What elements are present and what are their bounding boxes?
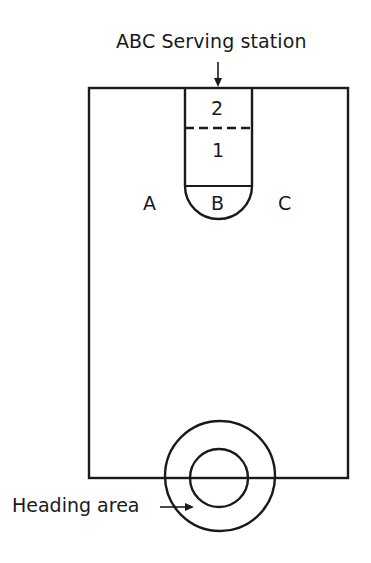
diagram-title: ABC Serving station <box>116 32 307 51</box>
zone-c-label: C <box>278 194 291 213</box>
zone-a-label: A <box>143 194 156 213</box>
zone-1-label: 1 <box>212 141 224 160</box>
court-diagram <box>0 0 371 563</box>
heading-area-label: Heading area <box>12 496 139 515</box>
zone-2-label: 2 <box>211 99 223 118</box>
down-arrow-icon <box>214 62 222 87</box>
heading-area-outer-circle <box>165 421 275 531</box>
zone-b-label: B <box>211 194 224 213</box>
